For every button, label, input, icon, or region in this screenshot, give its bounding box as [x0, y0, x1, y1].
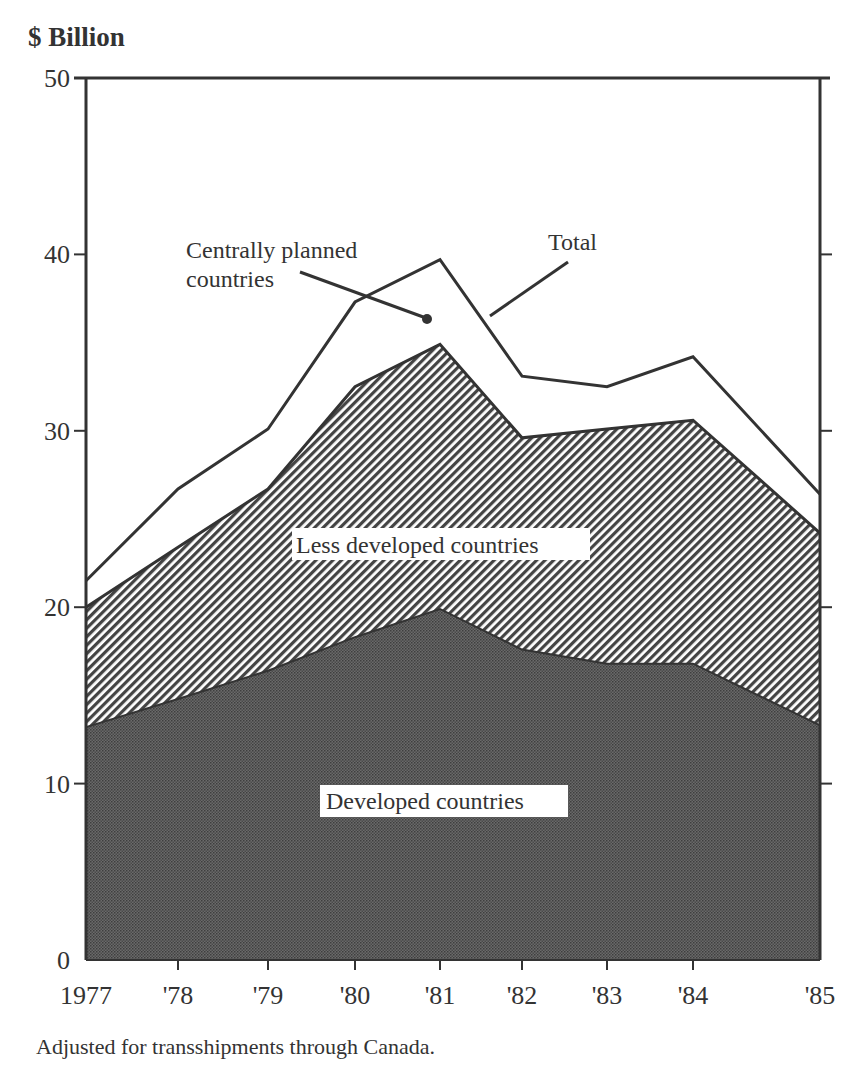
label-dc: Developed countries [326, 788, 524, 814]
leader-line-total [490, 262, 568, 316]
x-tick-label: '81 [425, 981, 456, 1010]
x-tick-label: '85 [805, 981, 836, 1010]
leader-dot-cpc [422, 314, 432, 324]
label-total: Total [548, 229, 597, 255]
y-tick-label: 10 [44, 770, 70, 799]
label-ldc: Less developed countries [296, 532, 539, 558]
stacked-area-chart: 010203040501977'78'79'80'81'82'83'84'85 … [0, 0, 860, 1083]
x-tick-label: '80 [340, 981, 371, 1010]
label-centrally-planned-2: countries [186, 266, 274, 292]
x-tick-label: 1977 [60, 981, 112, 1010]
label-centrally-planned: Centrally planned [186, 237, 357, 263]
footnote: Adjusted for transshipments through Cana… [36, 1034, 435, 1060]
y-tick-label: 0 [57, 946, 70, 975]
y-tick-label: 50 [44, 64, 70, 93]
y-tick-label: 40 [44, 240, 70, 269]
x-tick-label: '83 [592, 981, 623, 1010]
y-tick-label: 30 [44, 417, 70, 446]
x-tick-label: '79 [253, 981, 284, 1010]
x-tick-label: '82 [507, 981, 538, 1010]
leader-line-cpc [300, 272, 426, 318]
y-tick-label: 20 [44, 593, 70, 622]
x-tick-label: '78 [163, 981, 194, 1010]
x-tick-label: '84 [678, 981, 709, 1010]
plot-areas [86, 260, 820, 960]
